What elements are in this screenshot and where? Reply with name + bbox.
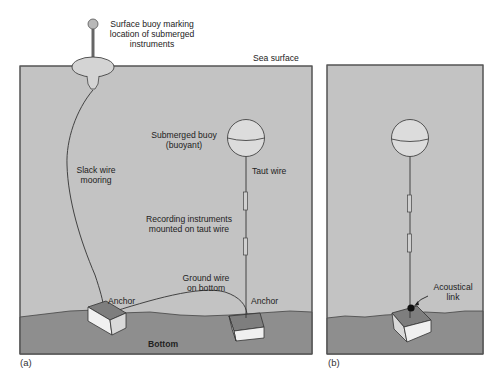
slack-wire-label-line1: Slack wire: [76, 165, 115, 175]
surface-buoy-label-line3: instruments: [130, 39, 174, 49]
anchor-right: [229, 313, 264, 341]
recording-instrument-b-1: [408, 195, 412, 212]
recording-instrument-b-2: [408, 234, 412, 252]
panel-a-tag: (a): [20, 357, 32, 368]
submerged-buoy-label-line1: Submerged buoy: [151, 130, 217, 140]
surface-buoy-label-line2: location of submerged: [110, 29, 195, 39]
anchor-left-label: Anchor: [108, 296, 135, 306]
taut-wire-label: Taut wire: [252, 166, 287, 176]
bottom-label: Bottom: [148, 339, 178, 349]
ground-wire-label-line1: Ground wire: [183, 273, 230, 283]
instruments-label-line2: mounted on taut wire: [149, 224, 229, 234]
panel-b-tag: (b): [328, 357, 340, 368]
slack-wire-label-line2: mooring: [80, 175, 111, 185]
recording-instrument-2: [244, 238, 248, 255]
surface-buoy-float: [72, 57, 114, 77]
mooring-diagram: Surface buoy marking location of submerg…: [0, 0, 503, 389]
submerged-buoy-b: [392, 120, 429, 157]
panel-b: Acoustical link (b): [327, 65, 483, 368]
submerged-buoy: [228, 120, 265, 157]
acoustical-link-label-line2: link: [447, 292, 461, 302]
surface-buoy-label-line1: Surface buoy marking: [110, 19, 194, 29]
submerged-buoy-label-line2: (buoyant): [166, 140, 202, 150]
recording-instrument-1: [244, 192, 248, 210]
surface-buoy-top-ball: [88, 19, 98, 29]
instruments-label-line1: Recording instruments: [146, 214, 232, 224]
acoustical-link-dot: [407, 304, 414, 311]
panel-a: Surface buoy marking location of submerg…: [20, 19, 312, 368]
ground-wire-label-line2: on bottom: [187, 283, 225, 293]
sea-surface-label: Sea surface: [253, 53, 299, 63]
panel-a-water: [20, 66, 312, 354]
anchor-right-label: Anchor: [251, 296, 278, 306]
acoustical-link-label-line1: Acoustical: [433, 282, 472, 292]
